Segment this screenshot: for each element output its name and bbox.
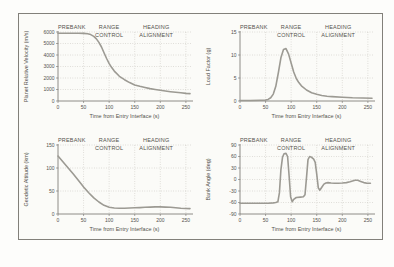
svg-text:HEADING: HEADING bbox=[143, 137, 169, 143]
svg-text:150: 150 bbox=[313, 217, 322, 223]
svg-text:5000: 5000 bbox=[43, 40, 54, 46]
figure-frame: 0501001502002500100020003000400050006000… bbox=[18, 13, 383, 240]
svg-text:Planet Relative Velocity (m/s): Planet Relative Velocity (m/s) bbox=[23, 31, 29, 103]
svg-text:150: 150 bbox=[131, 104, 140, 110]
svg-text:RANGE: RANGE bbox=[99, 137, 120, 143]
svg-text:0: 0 bbox=[234, 176, 237, 182]
svg-text:0: 0 bbox=[239, 104, 242, 110]
svg-text:Time from Entry Interface (s): Time from Entry Interface (s) bbox=[90, 113, 160, 119]
load-factor-chart: 050100150200250051015Time from Entry Int… bbox=[203, 15, 381, 126]
svg-text:200: 200 bbox=[156, 217, 165, 223]
altitude-chart-svg: 050100150200250050100150Time from Entry … bbox=[21, 128, 199, 239]
bank-angle-chart: 050100150200250-90-60-300306090Time from… bbox=[203, 128, 381, 239]
svg-text:100: 100 bbox=[46, 165, 55, 171]
svg-text:RANGE: RANGE bbox=[281, 24, 302, 30]
svg-text:50: 50 bbox=[49, 188, 55, 194]
svg-text:100: 100 bbox=[105, 104, 114, 110]
svg-text:50: 50 bbox=[263, 104, 269, 110]
svg-text:15: 15 bbox=[231, 29, 237, 35]
svg-text:RANGE: RANGE bbox=[99, 24, 120, 30]
svg-text:0: 0 bbox=[52, 211, 55, 217]
svg-text:HEADING: HEADING bbox=[325, 24, 351, 30]
svg-text:60: 60 bbox=[231, 153, 237, 159]
svg-text:ALIGNMENT: ALIGNMENT bbox=[321, 32, 355, 38]
svg-text:PREBANK: PREBANK bbox=[58, 137, 86, 143]
svg-text:200: 200 bbox=[338, 104, 347, 110]
svg-text:250: 250 bbox=[364, 217, 373, 223]
svg-text:CONTROL: CONTROL bbox=[277, 32, 305, 38]
svg-text:ALIGNMENT: ALIGNMENT bbox=[139, 32, 173, 38]
svg-text:PREBANK: PREBANK bbox=[58, 24, 86, 30]
velocity-chart: 0501001502002500100020003000400050006000… bbox=[21, 15, 199, 126]
velocity-chart-svg: 0501001502002500100020003000400050006000… bbox=[21, 15, 199, 126]
svg-text:ALIGNMENT: ALIGNMENT bbox=[321, 145, 355, 151]
svg-text:150: 150 bbox=[131, 217, 140, 223]
svg-text:50: 50 bbox=[81, 104, 87, 110]
svg-text:Bank Angle (deg): Bank Angle (deg) bbox=[205, 158, 211, 200]
svg-text:200: 200 bbox=[156, 104, 165, 110]
svg-text:100: 100 bbox=[287, 217, 296, 223]
svg-text:200: 200 bbox=[338, 217, 347, 223]
svg-text:CONTROL: CONTROL bbox=[95, 145, 123, 151]
svg-text:RANGE: RANGE bbox=[281, 137, 302, 143]
svg-text:CONTROL: CONTROL bbox=[277, 145, 305, 151]
svg-text:150: 150 bbox=[313, 104, 322, 110]
svg-text:-90: -90 bbox=[229, 211, 236, 217]
svg-text:4000: 4000 bbox=[43, 52, 54, 58]
svg-text:0: 0 bbox=[234, 98, 237, 104]
bank-angle-chart-svg: 050100150200250-90-60-300306090Time from… bbox=[203, 128, 381, 239]
svg-text:Geodetic Altitude (km): Geodetic Altitude (km) bbox=[23, 152, 29, 206]
svg-text:250: 250 bbox=[182, 104, 191, 110]
altitude-chart: 050100150200250050100150Time from Entry … bbox=[21, 128, 199, 239]
svg-text:5: 5 bbox=[234, 75, 237, 81]
svg-text:3000: 3000 bbox=[43, 63, 54, 69]
svg-text:Load Factor (g): Load Factor (g) bbox=[205, 48, 211, 86]
svg-text:0: 0 bbox=[57, 104, 60, 110]
svg-text:PREBANK: PREBANK bbox=[240, 137, 268, 143]
load-factor-chart-svg: 050100150200250051015Time from Entry Int… bbox=[203, 15, 381, 126]
svg-text:ALIGNMENT: ALIGNMENT bbox=[139, 145, 173, 151]
svg-text:50: 50 bbox=[263, 217, 269, 223]
svg-text:90: 90 bbox=[231, 142, 237, 148]
svg-text:HEADING: HEADING bbox=[325, 137, 351, 143]
svg-text:-30: -30 bbox=[229, 188, 236, 194]
svg-text:PREBANK: PREBANK bbox=[240, 24, 268, 30]
svg-text:1000: 1000 bbox=[43, 86, 54, 92]
svg-text:50: 50 bbox=[81, 217, 87, 223]
chart-grid: 0501001502002500100020003000400050006000… bbox=[19, 14, 382, 239]
svg-text:100: 100 bbox=[105, 217, 114, 223]
svg-text:150: 150 bbox=[46, 142, 55, 148]
svg-text:10: 10 bbox=[231, 52, 237, 58]
svg-text:30: 30 bbox=[231, 165, 237, 171]
svg-text:Time from Entry Interface (s): Time from Entry Interface (s) bbox=[272, 226, 342, 232]
svg-text:6000: 6000 bbox=[43, 29, 54, 35]
svg-text:2000: 2000 bbox=[43, 75, 54, 81]
svg-text:Time from Entry Interface (s): Time from Entry Interface (s) bbox=[90, 226, 160, 232]
svg-text:0: 0 bbox=[239, 217, 242, 223]
svg-text:250: 250 bbox=[364, 104, 373, 110]
svg-text:HEADING: HEADING bbox=[143, 24, 169, 30]
svg-text:100: 100 bbox=[287, 104, 296, 110]
svg-text:250: 250 bbox=[182, 217, 191, 223]
scanned-figure-page: { "colors": { "curve": "#9c9a93", "grid"… bbox=[0, 0, 394, 267]
svg-text:0: 0 bbox=[57, 217, 60, 223]
svg-text:CONTROL: CONTROL bbox=[95, 32, 123, 38]
svg-text:Time from Entry Interface (s): Time from Entry Interface (s) bbox=[272, 113, 342, 119]
svg-text:-60: -60 bbox=[229, 199, 236, 205]
svg-text:0: 0 bbox=[52, 98, 55, 104]
